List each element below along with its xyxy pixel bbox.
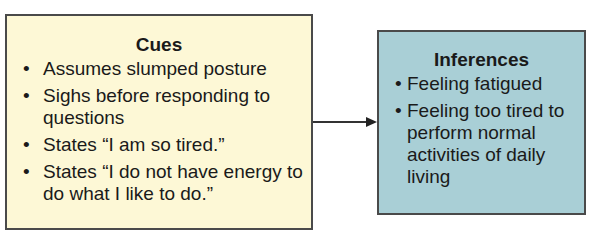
connector-arrow-line (313, 121, 369, 123)
arrowhead-icon (366, 117, 377, 127)
bullet-icon: • (23, 161, 30, 183)
inferences-list: •Feeling fatigued •Feeling too tired to … (379, 73, 584, 188)
bullet-icon: • (395, 73, 402, 95)
bullet-icon: • (23, 58, 30, 80)
bullet-icon: • (23, 134, 30, 156)
list-item: •States “I do not have energy to do what… (23, 161, 305, 205)
inferences-title: Inferences (379, 49, 584, 71)
list-item: •Assumes slumped posture (23, 58, 311, 80)
cues-list: •Assumes slumped posture •Sighs before r… (7, 58, 311, 205)
list-item: •Sighs before responding to questions (23, 85, 305, 129)
inferences-box: Inferences •Feeling fatigued •Feeling to… (377, 30, 586, 215)
bullet-icon: • (23, 85, 30, 107)
list-item: •Feeling fatigued (395, 73, 584, 95)
list-item: •States “I am so tired.” (23, 134, 311, 156)
cues-box: Cues •Assumes slumped posture •Sighs bef… (5, 14, 313, 230)
bullet-icon: • (395, 100, 402, 122)
list-item: •Feeling too tired to perform normal act… (395, 100, 572, 188)
cues-title: Cues (7, 34, 311, 56)
